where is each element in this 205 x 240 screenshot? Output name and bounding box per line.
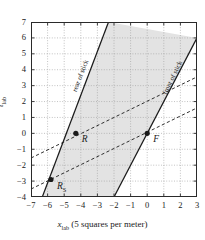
point-label-R: R xyxy=(82,135,88,145)
x-tick-label: −4 xyxy=(73,201,89,210)
x-tick-label: −6 xyxy=(40,201,56,210)
x-tick-label: −3 xyxy=(89,201,105,210)
y-tick-label: 5 xyxy=(8,49,26,58)
x-tick-label: 1 xyxy=(156,201,172,210)
data-point-RS xyxy=(48,177,53,182)
x-tick-label: 3 xyxy=(189,201,205,210)
y-axis-label: tlab xyxy=(0,97,7,107)
y-tick-label: 1 xyxy=(8,113,26,122)
y-tick-label: 0 xyxy=(8,129,26,138)
plot-area xyxy=(31,22,197,197)
x-tick-label: −7 xyxy=(23,201,39,210)
y-tick-label: 2 xyxy=(8,97,26,106)
y-tick-label: −4 xyxy=(8,193,26,202)
x-tick-label: −5 xyxy=(56,201,72,210)
point-label-RS: RS xyxy=(57,182,66,193)
y-tick-label: 3 xyxy=(8,81,26,90)
data-point-R xyxy=(73,131,78,136)
x-axis-label: xlab (5 squares per meter) xyxy=(0,219,205,231)
x-tick-label: 0 xyxy=(139,201,155,210)
y-tick-label: 7 xyxy=(8,18,26,27)
plot-canvas xyxy=(31,22,197,197)
spacetime-diagram-figure: −4−3−2−101234567 −7−6−5−4−3−2−10123 rear… xyxy=(0,0,205,240)
y-tick-label: −3 xyxy=(8,177,26,186)
x-tick-label: 2 xyxy=(172,201,188,210)
y-tick-label: 4 xyxy=(8,65,26,74)
y-tick-label: 6 xyxy=(8,33,26,42)
data-point-F xyxy=(145,131,150,136)
y-tick-label: −2 xyxy=(8,161,26,170)
point-label-F: F xyxy=(153,135,159,145)
x-tick-label: −2 xyxy=(106,201,122,210)
y-tick-label: −1 xyxy=(8,145,26,154)
x-tick-label: −1 xyxy=(123,201,139,210)
